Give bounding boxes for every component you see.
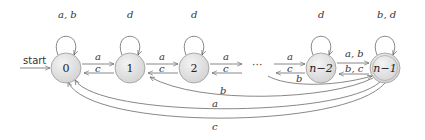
state-n-2: n−2 [306,53,336,83]
edge-2-1-label: c [159,63,165,74]
edge-dots-n-1-label: b [296,73,302,84]
state-n-2-label: n−2 [309,62,332,75]
start-arrow: start [20,55,50,68]
edge-n-2-n-1-label: a, b [345,48,364,59]
state-n-1-label: n−1 [373,62,396,75]
edge-n-1-0-a-label: a [212,98,218,109]
loop-2 [184,36,204,55]
edge-dots-n-2-label: a [287,51,293,62]
loop-n-1 [375,36,395,55]
loop-n-2-label: d [318,9,324,20]
state-1: 1 [115,53,145,83]
edge-n-2-dots-label: c [287,63,293,74]
edge-0-1-label: a [95,51,101,62]
edge-1-2-label: a [159,51,165,62]
edge-n-1-0-a [75,80,380,109]
edge-n-1-0-c-label: c [212,121,218,132]
edge-n-1-n-2-label: b, c [345,63,364,74]
edge-dots-2-label: c [223,63,229,74]
edge-1-0-label: c [95,63,101,74]
state-0-label: 0 [63,62,70,75]
loop-2-label: d [191,9,197,20]
state-1-label: 1 [127,62,134,75]
state-0: 0 [51,53,81,83]
start-label: start [23,55,46,66]
loop-0-label: a, b [58,9,77,20]
loop-n-2 [311,36,331,55]
ellipsis: ··· [252,59,263,72]
loop-1 [120,36,140,55]
state-n-1: n−1 [370,53,400,83]
edge-1-n-1 [150,77,373,96]
automaton-diagram: start a, b d d d b, d a c a c a c ··· a … [0,0,425,140]
loop-0 [56,36,76,55]
edge-1-n-1-label: b [220,85,226,96]
loop-1-label: d [127,9,133,20]
state-2: 2 [179,53,209,83]
edge-2-dots-label: a [223,51,229,62]
state-2-label: 2 [191,62,198,75]
edge-n-1-0-c [68,82,385,118]
loop-n-1-label: b, d [377,9,396,20]
